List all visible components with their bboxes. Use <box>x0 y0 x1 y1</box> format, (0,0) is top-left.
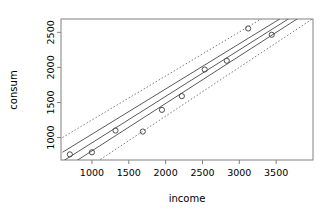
series-line <box>62 0 312 152</box>
plot-canvas: 100015002000250030003500 100015002000250… <box>0 0 336 214</box>
regression-band-lines <box>62 0 312 185</box>
y-axis-ticks <box>57 32 61 137</box>
y-tick-label: 1500 <box>46 90 57 114</box>
data-point-group <box>67 26 274 157</box>
y-tick-label: 1000 <box>46 125 57 149</box>
x-tick-label: 1000 <box>80 167 104 178</box>
x-tick-label: 2000 <box>154 167 178 178</box>
data-point <box>224 58 229 63</box>
data-point <box>179 94 184 99</box>
series-line <box>62 0 312 138</box>
x-axis-ticks <box>92 160 276 164</box>
x-axis-tick-labels: 100015002000250030003500 <box>80 167 288 178</box>
y-axis-tick-labels: 1000150020002500 <box>46 20 57 149</box>
y-axis-title: consum <box>8 70 19 109</box>
data-point <box>246 26 251 31</box>
scatter-plot-figure: 100015002000250030003500 100015002000250… <box>0 0 336 214</box>
data-point <box>113 128 118 133</box>
data-point <box>140 129 145 134</box>
y-tick-label: 2000 <box>46 55 57 79</box>
series-line <box>62 4 312 161</box>
x-tick-label: 2500 <box>190 167 214 178</box>
x-tick-label: 3000 <box>227 167 251 178</box>
x-tick-label: 1500 <box>117 167 141 178</box>
y-tick-label: 2500 <box>46 20 57 44</box>
data-point <box>159 107 164 112</box>
x-axis-title: income <box>169 193 206 204</box>
x-tick-label: 3500 <box>264 167 288 178</box>
series-line <box>62 9 312 170</box>
